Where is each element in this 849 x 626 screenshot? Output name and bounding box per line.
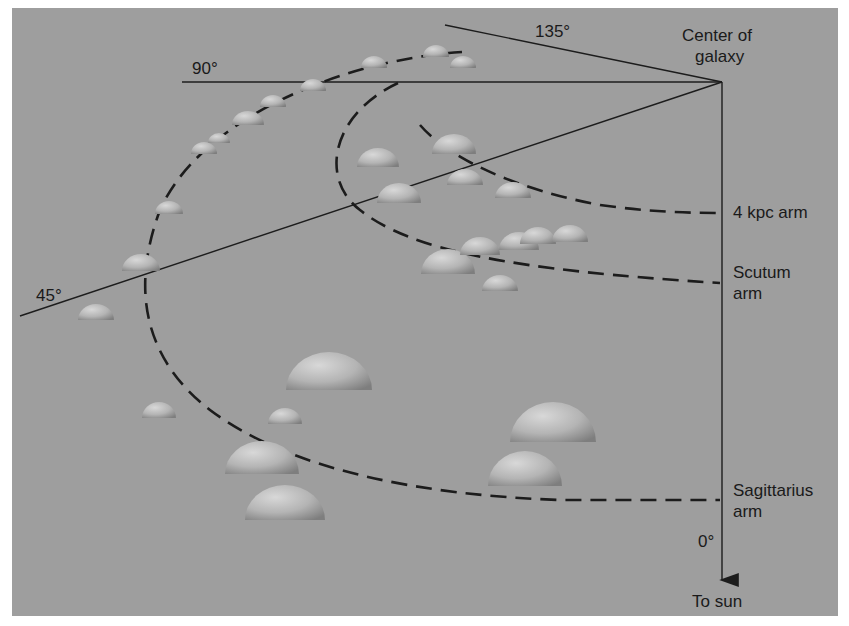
label-scutum-arm-line2: arm: [733, 284, 762, 303]
label-sagittarius-arm-line2: arm: [733, 502, 762, 521]
center-of-galaxy-label-line1: Center of: [682, 26, 752, 45]
sagittarius-arm: [145, 52, 720, 500]
label-sagittarius-arm-line1: Sagittarius: [733, 481, 813, 500]
label-4kpc-arm: 4 kpc arm: [733, 203, 808, 222]
label-45-deg: 45°: [36, 286, 62, 305]
label-0-deg: 0°: [698, 532, 714, 551]
scutum-arm: [336, 83, 720, 283]
label-to-sun: To sun: [692, 592, 742, 611]
label-90-deg: 90°: [192, 59, 218, 78]
label-scutum-arm-line1: Scutum: [733, 263, 791, 282]
center-of-galaxy-label-line2: galaxy: [695, 47, 745, 66]
hii-regions: [78, 45, 596, 520]
line-135-deg: [445, 25, 722, 82]
line-45-deg: [20, 82, 722, 316]
label-135-deg: 135°: [535, 22, 570, 41]
galaxy-arms-diagram: Center of galaxy 135° 90° 45° 0° To sun …: [0, 0, 849, 626]
